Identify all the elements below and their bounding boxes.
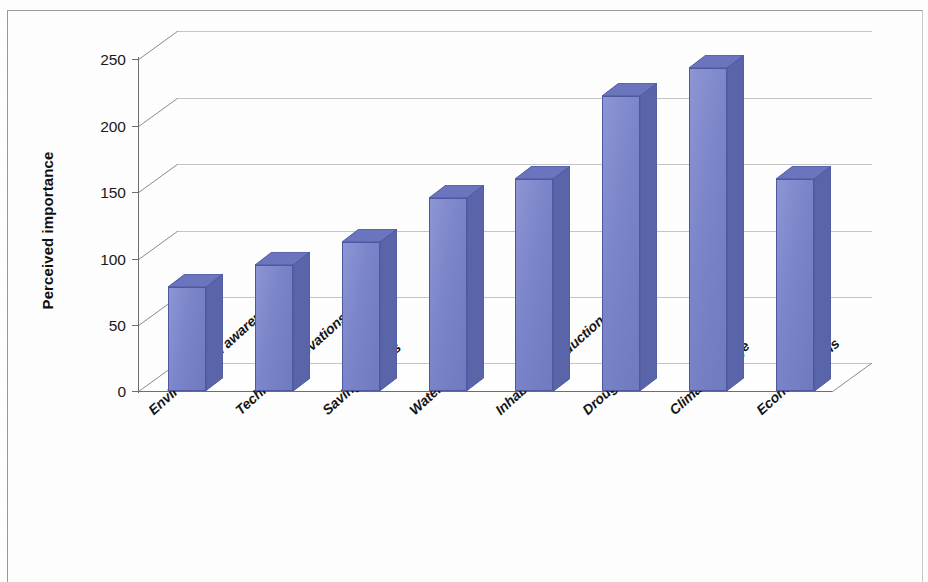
gridline-200 xyxy=(138,98,872,127)
bar-top-face xyxy=(342,229,397,243)
y-tick-label-0: 0 xyxy=(84,383,126,401)
bar-side-face xyxy=(380,229,397,391)
bar-front-face xyxy=(689,68,727,391)
bar-column xyxy=(255,265,293,391)
y-axis-line xyxy=(138,57,139,393)
chart-plot-area: 0 50 100 150 200 250 Perceived importanc… xyxy=(0,0,928,582)
bar-front-face xyxy=(429,198,467,391)
y-tick-label-100: 100 xyxy=(84,251,126,269)
bar-front-face xyxy=(515,179,553,391)
bar-top-face xyxy=(255,252,310,266)
bar-column xyxy=(689,68,727,391)
bar-column xyxy=(168,287,206,391)
y-tick-mark-200 xyxy=(132,126,138,127)
bar-top-face xyxy=(776,166,831,180)
gridline-250 xyxy=(138,31,872,60)
bar-column xyxy=(342,242,380,391)
bar-side-face xyxy=(640,83,657,391)
bar-front-face xyxy=(342,242,380,391)
y-tick-mark-50 xyxy=(132,325,138,326)
bar-column xyxy=(515,179,553,391)
y-tick-mark-250 xyxy=(132,59,138,60)
gridline-150 xyxy=(138,164,872,193)
gridline-100 xyxy=(138,231,872,260)
bar-side-face xyxy=(814,166,831,391)
bar-side-face xyxy=(293,252,310,391)
bar-top-face xyxy=(602,83,657,97)
bar-top-face xyxy=(168,274,223,288)
bar-top-face xyxy=(515,166,570,180)
bar-top-face xyxy=(429,185,484,199)
bar-column xyxy=(776,179,814,391)
y-tick-mark-100 xyxy=(132,259,138,260)
y-tick-mark-150 xyxy=(132,192,138,193)
y-tick-label-50: 50 xyxy=(84,317,126,335)
bar-side-face xyxy=(727,55,744,391)
y-tick-label-250: 250 xyxy=(84,51,126,69)
bar-side-face xyxy=(206,274,223,391)
bar-front-face xyxy=(168,287,206,391)
bar-front-face xyxy=(602,96,640,391)
bar-side-face xyxy=(467,185,484,391)
y-tick-mark-0 xyxy=(132,391,138,392)
bar-column xyxy=(602,96,640,391)
bar-top-face xyxy=(689,55,744,69)
chart-floor-plane xyxy=(138,363,872,392)
bar-side-face xyxy=(553,166,570,391)
x-axis-line xyxy=(138,391,832,392)
bar-column xyxy=(429,198,467,391)
y-tick-label-150: 150 xyxy=(84,184,126,202)
y-tick-label-200: 200 xyxy=(84,118,126,136)
bar-front-face xyxy=(255,265,293,391)
y-axis-title: Perceived importance xyxy=(39,131,56,331)
chart-page: 0 50 100 150 200 250 Perceived importanc… xyxy=(0,0,928,582)
bar-front-face xyxy=(776,179,814,391)
